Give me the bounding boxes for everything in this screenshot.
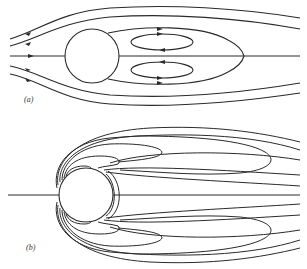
panel-a: [10, 6, 300, 105]
panel-label-b: (b): [26, 243, 35, 252]
cylinder-b: [59, 168, 113, 222]
panel-b: [8, 127, 300, 262]
streamline-b-upper-9: [110, 153, 300, 163]
panel-label-a: (a): [24, 95, 33, 104]
flow-diagram: [0, 0, 307, 269]
streamline-top-inner: [10, 16, 300, 46]
eddy-upper: [131, 34, 193, 50]
streamline-bottom-inner: [10, 66, 300, 96]
streamline-b-lower-9: [110, 227, 300, 237]
cylinder-a: [65, 29, 119, 83]
eddy-lower: [131, 62, 193, 78]
